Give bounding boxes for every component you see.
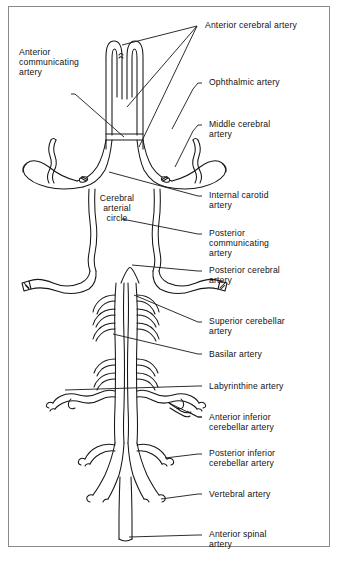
pontine-branches (93, 309, 159, 390)
internal-carotid-artery-stump (79, 176, 170, 183)
labyrinthine-artery-vessel (46, 390, 205, 416)
label-internal-carotid-artery: Internal carotid artery (209, 190, 327, 210)
posterior-inferior-cerebellar-artery-vessel (78, 444, 173, 466)
label-labyrinthine-artery: Labyrinthine artery (209, 381, 331, 391)
internal-carotid-artery-vessel (77, 140, 172, 187)
figure-page: Cerebral arterial circle Anterior commun… (0, 0, 338, 566)
label-middle-cerebral-artery: Middle cerebral artery (209, 119, 327, 139)
vertebral-artery-vessel (87, 443, 165, 502)
middle-cerebral-artery-vessel (23, 161, 226, 189)
label-ophthalmic-artery: Ophthalmic artery (209, 77, 331, 87)
label-anterior-inferior-cerebellar-artery: Anterior inferior cerebellar artery (209, 412, 327, 432)
label-basilar-artery: Basilar artery (209, 349, 327, 359)
label-cerebral-arterial-circle: Cerebral arterial circle (94, 193, 140, 224)
label-anterior-communicating-artery: Anterior communicating artery (19, 47, 89, 78)
figure-caption (8, 552, 330, 564)
label-superior-cerebellar-artery: Superior cerebellar artery (209, 316, 331, 336)
basilar-artery-vessel (115, 283, 138, 443)
label-vertebral-artery: Vertebral artery (209, 489, 327, 499)
superior-cerebellar-artery-vessel (93, 295, 159, 314)
label-anterior-cerebral-artery: Anterior cerebral artery (205, 20, 331, 30)
label-posterior-cerebral-artery: Posterior cerebral artery (209, 265, 331, 285)
label-anterior-spinal-artery: Anterior spinal artery (209, 529, 327, 549)
leader-lines (65, 26, 202, 537)
label-posterior-inferior-cerebellar-artery: Posterior inferior cerebellar artery (209, 448, 331, 468)
figure-frame: Cerebral arterial circle Anterior commun… (8, 6, 330, 547)
label-posterior-communicating-artery: Posterior communicating artery (209, 228, 327, 259)
anterior-spinal-artery-vessel (119, 477, 132, 541)
basilar-bifurcation (121, 268, 139, 284)
